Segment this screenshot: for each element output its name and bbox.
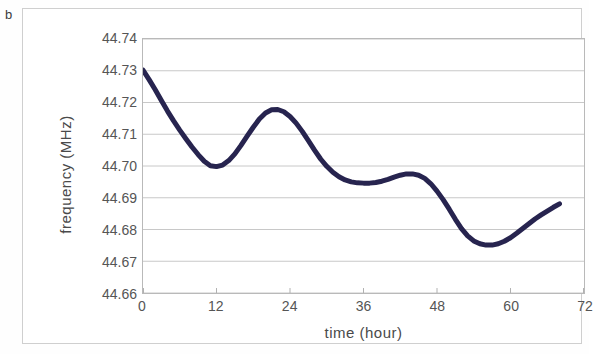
y-tick-label-3: 44.69 [75,190,137,206]
figure-frame: 44.6644.6744.6844.6944.7044.7144.7244.73… [22,8,582,344]
y-tick-label-6: 44.72 [75,94,137,110]
y-tick-label-2: 44.68 [75,222,137,238]
x-tick-label-3: 36 [356,298,372,314]
x-tick-label-1: 12 [208,298,224,314]
x-tick-label-6: 72 [577,298,593,314]
x-tick-label-0: 0 [138,298,146,314]
y-axis-label: frequency (MHz) [57,55,74,295]
plot-area [142,38,585,294]
y-tick-label-8: 44.74 [75,30,137,46]
series-path-0 [143,70,560,245]
x-tick-label-4: 48 [430,298,446,314]
data-line-frequency [143,39,584,293]
x-axis-tick-labels: 0122436486072 [142,298,585,322]
panel-letter: b [5,8,12,21]
y-tick-label-0: 44.66 [75,286,137,302]
x-axis-label: time (hour) [142,324,585,341]
y-tick-label-5: 44.71 [75,126,137,142]
x-tick-label-2: 24 [282,298,298,314]
y-tick-label-4: 44.70 [75,158,137,174]
y-tick-label-7: 44.73 [75,62,137,78]
y-tick-label-1: 44.67 [75,254,137,270]
y-axis-tick-labels: 44.6644.6744.6844.6944.7044.7144.7244.73… [71,38,137,294]
x-tick-label-5: 60 [503,298,519,314]
